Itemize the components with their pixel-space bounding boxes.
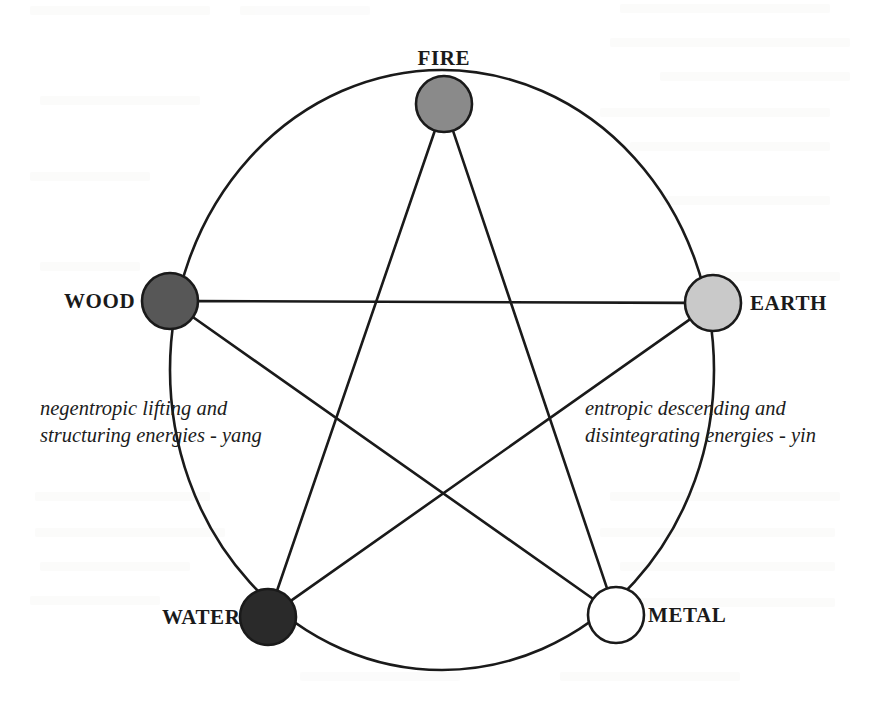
- node-label-fire: FIRE: [418, 48, 471, 69]
- five-elements-figure: FIREWOODEARTHWATERMETAL negentropic lift…: [0, 0, 881, 707]
- edge-water-fire: [277, 130, 435, 592]
- yang-annotation-line-1: negentropic lifting and: [40, 395, 262, 422]
- controlling-cycle-edges-group: [192, 130, 691, 602]
- node-fire[interactable]: [416, 76, 472, 132]
- five-elements-diagram-canvas: [0, 0, 881, 707]
- node-water[interactable]: [240, 589, 296, 645]
- edge-earth-water: [290, 319, 691, 602]
- yin-annotation-line-2: disintegrating energies - yin: [585, 422, 816, 449]
- node-wood[interactable]: [142, 273, 198, 329]
- node-label-water: WATER: [162, 607, 240, 628]
- edge-metal-wood: [192, 317, 594, 600]
- node-label-earth: EARTH: [750, 293, 827, 314]
- yin-annotation-line-1: entropic descending and: [585, 395, 816, 422]
- node-metal[interactable]: [588, 587, 644, 643]
- edge-fire-metal: [453, 130, 608, 590]
- generating-cycle-circle: [170, 70, 714, 670]
- yang-annotation: negentropic lifting andstructuring energ…: [40, 395, 262, 450]
- edge-wood-earth: [197, 301, 686, 303]
- yin-annotation: entropic descending anddisintegrating en…: [585, 395, 816, 450]
- node-earth[interactable]: [685, 275, 741, 331]
- node-label-metal: METAL: [648, 605, 726, 626]
- generating-cycle-circle-group: [170, 70, 714, 670]
- node-label-wood: WOOD: [64, 291, 135, 312]
- yang-annotation-line-2: structuring energies - yang: [40, 422, 262, 449]
